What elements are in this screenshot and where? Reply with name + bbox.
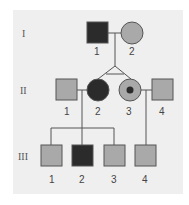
individual-III-3-male-unaffected [104,145,125,166]
label-I-1: 1 [94,46,100,57]
label-II-1: 1 [64,106,70,117]
generation-label-II: II [20,85,27,96]
individual-III-4-male-unaffected [135,145,156,166]
generation-label-III: III [18,151,28,162]
generation-3 [41,145,156,166]
label-II-2: 2 [95,106,101,117]
generation-2 [56,79,173,101]
label-III-1: 1 [49,174,55,185]
individual-II-4-male-unaffected [152,79,173,100]
pedigree-diagram: I II III 1 2 1 2 3 4 1 2 3 4 [0,0,189,205]
individual-III-1-male-unaffected [41,145,62,166]
label-II-4: 4 [159,106,165,117]
label-III-3: 3 [111,174,117,185]
label-III-4: 4 [142,174,148,185]
individual-II-1-male-unaffected [56,79,77,100]
generation-label-I: I [22,28,25,39]
label-I-2: 2 [129,46,135,57]
label-II-3: 3 [126,106,132,117]
individual-III-2-male-affected [72,145,93,166]
label-III-2: 2 [79,174,85,185]
individual-II-2-female-affected [87,79,109,101]
individual-I-2-female-unaffected [121,22,143,44]
carrier-dot-icon [127,87,134,94]
individual-I-1-male-affected [87,22,108,43]
